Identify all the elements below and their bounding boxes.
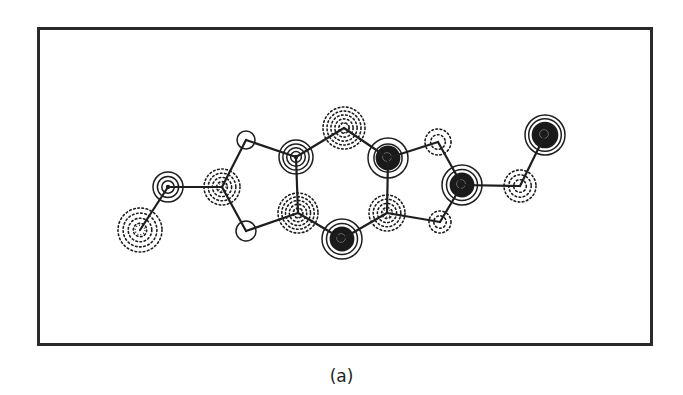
orbital-contour-diagram: [0, 0, 683, 395]
bond-line: [222, 140, 246, 187]
bond-line: [298, 213, 342, 239]
bond-line: [296, 128, 344, 157]
bond-line: [246, 213, 298, 231]
bond-skeleton: [140, 128, 545, 239]
bond-line: [222, 187, 246, 231]
bond-line: [462, 185, 520, 186]
bond-line: [344, 128, 388, 158]
bond-line: [438, 142, 462, 185]
bond-line: [520, 135, 545, 186]
bond-line: [387, 158, 388, 213]
figure-caption: (a): [0, 366, 683, 386]
bond-line: [342, 213, 387, 239]
